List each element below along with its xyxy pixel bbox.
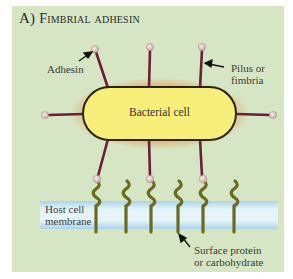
adhesin-top-2 — [146, 43, 153, 50]
pilus-top-2 — [149, 50, 150, 88]
adhesin-bottom-3 — [199, 175, 207, 183]
membrane-label-line2: membrane — [45, 215, 91, 227]
pilus-left — [48, 114, 84, 115]
pilus-top-1 — [96, 52, 108, 88]
surface-protein-label: Surface protein or carbohydrate — [194, 244, 263, 268]
surface-label-line2: or carbohydrate — [194, 256, 263, 268]
membrane-label-line1: Host cell — [45, 203, 91, 215]
pilus-arrow-icon — [205, 60, 224, 67]
surface-arrow-icon — [179, 234, 190, 247]
pilus-bottom-1 — [98, 139, 108, 176]
adhesin-bottom-2 — [146, 175, 154, 183]
pilus-label: Pilus or fimbria — [231, 62, 265, 86]
membrane-label: Host cell membrane — [45, 203, 91, 227]
pilus-right — [236, 114, 270, 115]
adhesin-right — [269, 111, 276, 118]
surface-label-line1: Surface protein — [194, 244, 263, 256]
pilus-label-line2: fimbria — [231, 74, 265, 86]
adhesin-arrow-icon — [79, 52, 92, 61]
fimbrial-adhesin-diagram — [0, 0, 293, 279]
pilus-bottom-2 — [149, 139, 150, 176]
title-text: Fimbrial adhesin — [39, 11, 140, 26]
adhesin-top-3 — [198, 43, 205, 50]
adhesin-bottom-1 — [93, 175, 101, 183]
figure-title: A)Fimbrial adhesin — [19, 10, 140, 27]
bacterial-cell-label: Bacterial cell — [83, 106, 236, 118]
adhesin-left — [41, 111, 48, 118]
pilus-label-line1: Pilus or — [231, 62, 265, 74]
panel-letter: A) — [19, 10, 35, 26]
adhesin-label: Adhesin — [47, 63, 84, 75]
